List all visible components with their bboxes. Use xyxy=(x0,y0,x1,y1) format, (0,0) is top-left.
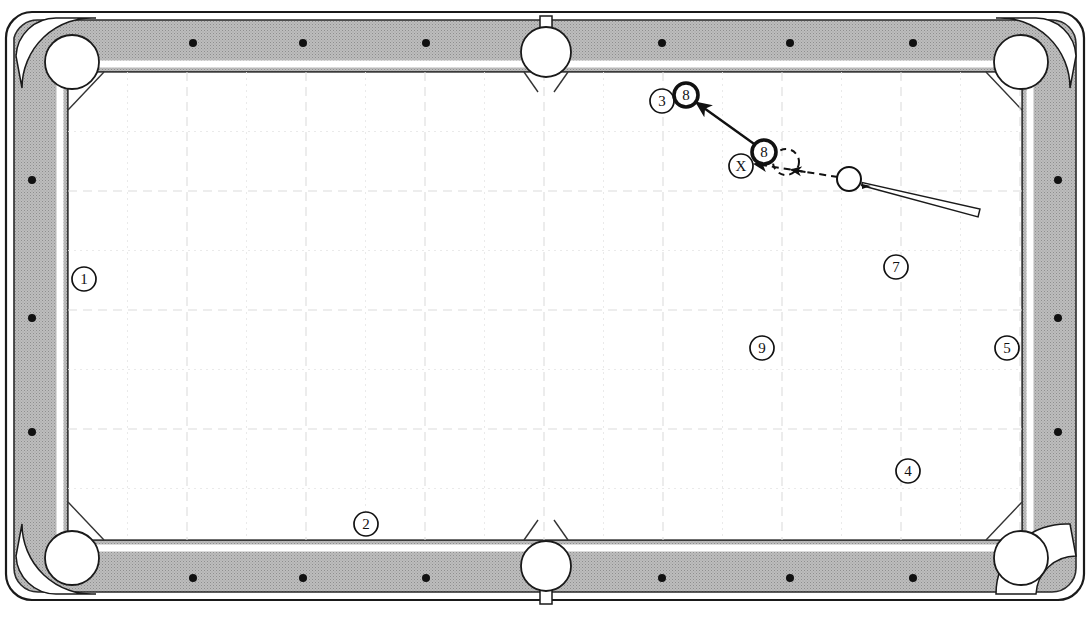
ball-4[interactable]: 4 xyxy=(896,459,920,483)
rail-diamond xyxy=(189,574,197,582)
pocket-mouth xyxy=(45,35,99,89)
ball-number-label: 1 xyxy=(80,271,88,287)
rail-diamond xyxy=(422,39,430,47)
pocket-mouth xyxy=(521,27,571,77)
rail-diamond xyxy=(299,574,307,582)
pocket-mouth xyxy=(994,531,1048,585)
rail-diamond xyxy=(1054,314,1062,322)
ball-7[interactable]: 7 xyxy=(884,255,908,279)
pool-table-diagram: 129457388X xyxy=(0,0,1092,618)
ball-8-target[interactable]: 8 xyxy=(752,140,776,164)
pool-diagram-stage: 129457388X xyxy=(0,0,1092,618)
ball-9[interactable]: 9 xyxy=(750,336,774,360)
pocket-tab xyxy=(540,590,552,604)
ball-1[interactable]: 1 xyxy=(72,267,96,291)
ball-3[interactable]: 3 xyxy=(650,89,674,113)
ball-5[interactable]: 5 xyxy=(995,336,1019,360)
ball-number-label: 3 xyxy=(658,93,666,109)
cue-ball-outline xyxy=(837,167,861,191)
ball-number-label: X xyxy=(736,158,747,174)
rail-diamond xyxy=(28,176,36,184)
ball-number-label: 4 xyxy=(904,463,912,479)
pocket-mouth xyxy=(994,35,1048,89)
pocket-top-right[interactable] xyxy=(994,35,1048,89)
table-rails xyxy=(14,18,1076,594)
ball-2[interactable]: 2 xyxy=(354,512,378,536)
ball-number-label: 2 xyxy=(362,516,370,532)
rail-diamond xyxy=(786,574,794,582)
cue-ball[interactable] xyxy=(837,167,861,191)
ball-number-label: 8 xyxy=(682,87,690,103)
rail-diamond xyxy=(909,574,917,582)
rail-diamond xyxy=(28,314,36,322)
pocket-mouth xyxy=(521,541,571,591)
pocket-mouth xyxy=(45,531,99,585)
playfield-surface xyxy=(68,72,1022,540)
ball-number-label: 8 xyxy=(760,144,768,160)
pocket-bottom-left[interactable] xyxy=(45,531,99,585)
rail-diamond xyxy=(786,39,794,47)
ball-number-label: 9 xyxy=(758,340,766,356)
x-marker[interactable]: X xyxy=(729,154,753,178)
ball-number-label: 7 xyxy=(892,259,900,275)
rail-diamond xyxy=(1054,428,1062,436)
rail-diamond xyxy=(658,39,666,47)
pocket-top-left[interactable] xyxy=(45,35,99,89)
rail-diamond xyxy=(422,574,430,582)
rail-diamond xyxy=(189,39,197,47)
rail-diamond xyxy=(28,428,36,436)
ball-number-label: 5 xyxy=(1003,340,1011,356)
rail-diamond xyxy=(1054,176,1062,184)
rail-diamond xyxy=(299,39,307,47)
pocket-bottom-right[interactable] xyxy=(994,531,1048,585)
rail-diamond xyxy=(658,574,666,582)
rail-diamond xyxy=(909,39,917,47)
ball-8-destination[interactable]: 8 xyxy=(674,83,698,107)
